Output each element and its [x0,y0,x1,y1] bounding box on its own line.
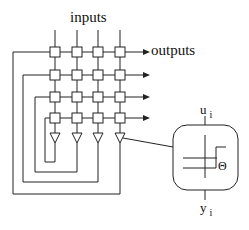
y-symbol: y [200,200,207,215]
y-subscript: i [210,207,213,218]
output-arrows [143,49,150,121]
y-label: yi [200,201,212,214]
u-subscript: i [210,109,213,120]
synapse-boxes [50,47,125,123]
inputs-label: inputs [70,10,107,25]
outputs-label: outputs [151,43,195,58]
crossbar-network-diagram: inputs outputs ui yi Θ [0,0,249,230]
input-lines [55,30,120,118]
u-label: ui [200,103,212,116]
theta-label: Θ [218,160,227,172]
u-symbol: u [200,102,207,117]
